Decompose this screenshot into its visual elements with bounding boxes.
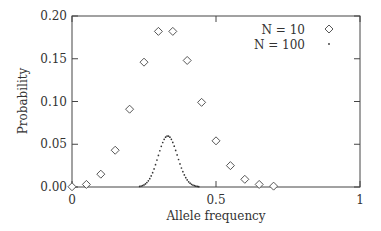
- y-tick-label: 0.05: [40, 137, 67, 151]
- dot-marker-icon: [328, 43, 330, 45]
- legend-label-n100: N = 100: [254, 38, 305, 52]
- x-axis-ticks: 00.51: [68, 16, 364, 207]
- diamond-marker-icon: [68, 183, 76, 191]
- chart: 0.000.050.100.150.20 00.51 Allele freque…: [0, 0, 381, 231]
- diamond-marker-icon: [140, 58, 148, 66]
- diamond-marker-icon: [97, 170, 105, 178]
- series-n10-diamonds: [68, 27, 278, 190]
- legend-label-n10: N = 10: [262, 23, 305, 37]
- diamond-marker-icon: [154, 27, 162, 35]
- diamond-marker-icon: [126, 105, 134, 113]
- plot-frame: [72, 16, 360, 187]
- diamond-marker-icon: [169, 27, 177, 35]
- y-tick-label: 0.15: [40, 52, 67, 66]
- y-tick-label: 0.20: [40, 9, 67, 23]
- x-tick-label: 0.5: [206, 193, 225, 207]
- y-tick-label: 0.10: [40, 95, 67, 109]
- x-tick-label: 1: [356, 193, 364, 207]
- diamond-marker-icon: [325, 25, 333, 33]
- diamond-marker-icon: [270, 182, 278, 190]
- diamond-marker-icon: [212, 137, 220, 145]
- diamond-marker-icon: [241, 175, 249, 183]
- diamond-marker-icon: [183, 56, 191, 64]
- diamond-marker-icon: [198, 98, 206, 106]
- y-axis-title: Probability: [16, 67, 30, 134]
- legend: N = 10 N = 100: [254, 23, 333, 52]
- x-axis-title: Allele frequency: [165, 209, 265, 223]
- diamond-marker-icon: [111, 146, 119, 154]
- y-tick-label: 0.00: [40, 180, 67, 194]
- x-tick-label: 0: [68, 193, 76, 207]
- diamond-marker-icon: [226, 162, 234, 170]
- series-n100-dots: [139, 135, 200, 187]
